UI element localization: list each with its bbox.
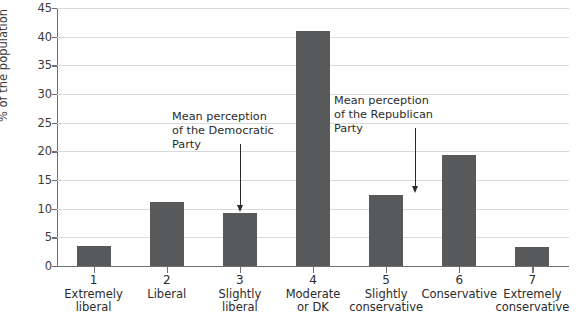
y-tick-label: 5 xyxy=(45,230,52,244)
arrow-head-icon xyxy=(237,205,243,212)
y-axis-ticks: 051015202530354045 xyxy=(0,0,52,319)
x-label-line1: Liberal xyxy=(147,288,186,302)
annotation-line1: Mean perception xyxy=(172,110,274,124)
bar xyxy=(369,195,403,266)
x-label-line2: liberal xyxy=(64,301,122,315)
arrow-shaft xyxy=(415,128,416,186)
x-tick-label: 3Slightlyliberal xyxy=(218,274,261,315)
annotation-democratic: Mean perceptionof the DemocraticParty xyxy=(172,110,274,153)
y-tick-label: 0 xyxy=(45,259,52,273)
x-label-number: 6 xyxy=(421,274,497,288)
plot-area xyxy=(57,8,569,266)
y-tick-label: 30 xyxy=(38,87,52,101)
y-tick-mark xyxy=(52,37,57,38)
annotation-republican: Mean perceptionof the RepublicanParty xyxy=(334,94,433,137)
x-label-line2: conservative xyxy=(495,301,569,315)
annotation-line2: of the Republican xyxy=(334,108,433,122)
x-label-line2: or DK xyxy=(286,301,341,315)
arrow-head-icon xyxy=(412,186,418,193)
bar xyxy=(442,155,476,266)
x-label-line1: Slightly xyxy=(218,288,261,302)
x-label-line1: Extremely xyxy=(495,288,569,302)
x-label-number: 5 xyxy=(349,274,423,288)
annotation-line3: Party xyxy=(172,138,274,152)
bar xyxy=(77,246,111,266)
y-tick-mark xyxy=(52,209,57,210)
x-tick-label: 6Conservative xyxy=(421,274,497,301)
x-label-number: 4 xyxy=(286,274,341,288)
y-tick-mark xyxy=(52,65,57,66)
y-tick-mark xyxy=(52,237,57,238)
annotation-line3: Party xyxy=(334,122,433,136)
x-label-line1: Moderate xyxy=(286,288,341,302)
y-tick-label: 20 xyxy=(38,144,52,158)
y-tick-mark xyxy=(52,151,57,152)
x-label-line1: Conservative xyxy=(421,288,497,302)
x-tick-label: 4Moderateor DK xyxy=(286,274,341,315)
annotation-line2: of the Democratic xyxy=(172,124,274,138)
bar xyxy=(515,247,549,266)
x-tick-label: 7Extremelyconservative xyxy=(495,274,569,315)
arrow-shaft xyxy=(240,144,241,205)
y-tick-label: 15 xyxy=(38,173,52,187)
y-tick-label: 40 xyxy=(38,30,52,44)
y-tick-label: 45 xyxy=(38,1,52,15)
bar xyxy=(150,202,184,266)
x-label-line1: Extremely xyxy=(64,288,122,302)
x-tick-label: 5Slightlyconservative xyxy=(349,274,423,315)
y-tick-mark xyxy=(52,94,57,95)
gridline xyxy=(57,8,569,9)
y-tick-mark xyxy=(52,123,57,124)
bar-chart: % of the population 051015202530354045 1… xyxy=(0,0,579,319)
x-label-line2: conservative xyxy=(349,301,423,315)
y-tick-mark xyxy=(52,180,57,181)
y-tick-label: 10 xyxy=(38,202,52,216)
annotation-line1: Mean perception xyxy=(334,94,433,108)
x-label-number: 3 xyxy=(218,274,261,288)
y-tick-mark xyxy=(52,266,57,267)
x-label-number: 1 xyxy=(64,274,122,288)
y-tick-mark xyxy=(52,8,57,9)
x-label-number: 7 xyxy=(495,274,569,288)
y-tick-label: 25 xyxy=(38,116,52,130)
bar xyxy=(223,213,257,266)
x-label-line2: liberal xyxy=(218,301,261,315)
x-label-line1: Slightly xyxy=(349,288,423,302)
bar xyxy=(296,31,330,266)
x-label-number: 2 xyxy=(147,274,186,288)
y-tick-label: 35 xyxy=(38,58,52,72)
x-tick-label: 1Extremelyliberal xyxy=(64,274,122,315)
x-tick-label: 2Liberal xyxy=(147,274,186,301)
